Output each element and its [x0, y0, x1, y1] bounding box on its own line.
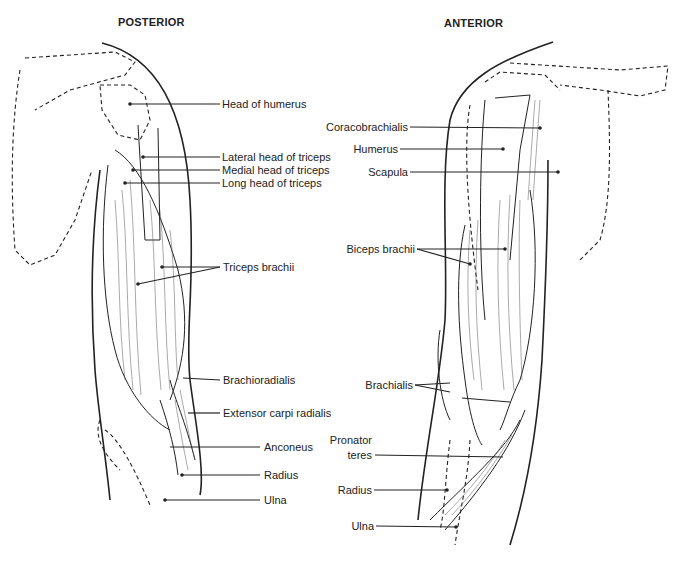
posterior-scapula-dashed	[12, 52, 150, 505]
label-long-head-of-triceps: Long head of triceps	[222, 177, 322, 189]
label-ulna-posterior: Ulna	[264, 494, 287, 506]
posterior-triceps-muscle	[103, 125, 195, 475]
label-triceps-brachii: Triceps brachii	[223, 261, 294, 273]
anterior-arm-outline	[418, 42, 553, 545]
label-coracobrachialis: Coracobrachialis	[300, 121, 408, 133]
label-extensor-carpi-radialis: Extensor carpi radialis	[223, 407, 331, 419]
label-brachialis: Brachialis	[300, 379, 413, 391]
anterior-leader-dots	[445, 126, 560, 529]
posterior-hatching	[115, 180, 195, 470]
label-scapula: Scapula	[300, 166, 408, 178]
anterior-view-title: ANTERIOR	[444, 17, 503, 29]
label-brachioradialis: Brachioradialis	[223, 374, 295, 386]
label-radius-anterior: Radius	[300, 484, 372, 496]
label-ulna-anterior: Ulna	[300, 520, 374, 532]
label-biceps-brachii: Biceps brachii	[300, 243, 415, 255]
label-pronator: Pronator	[300, 434, 372, 446]
label-head-of-humerus: Head of humerus	[222, 98, 306, 110]
posterior-view-title: POSTERIOR	[118, 16, 185, 28]
posterior-arm-outline	[92, 43, 201, 500]
label-radius-posterior: Radius	[264, 469, 298, 481]
label-humerus: Humerus	[300, 143, 398, 155]
label-teres: teres	[300, 449, 372, 461]
anterior-scapula-dashed	[440, 63, 668, 545]
anterior-leader-lines	[374, 127, 558, 527]
